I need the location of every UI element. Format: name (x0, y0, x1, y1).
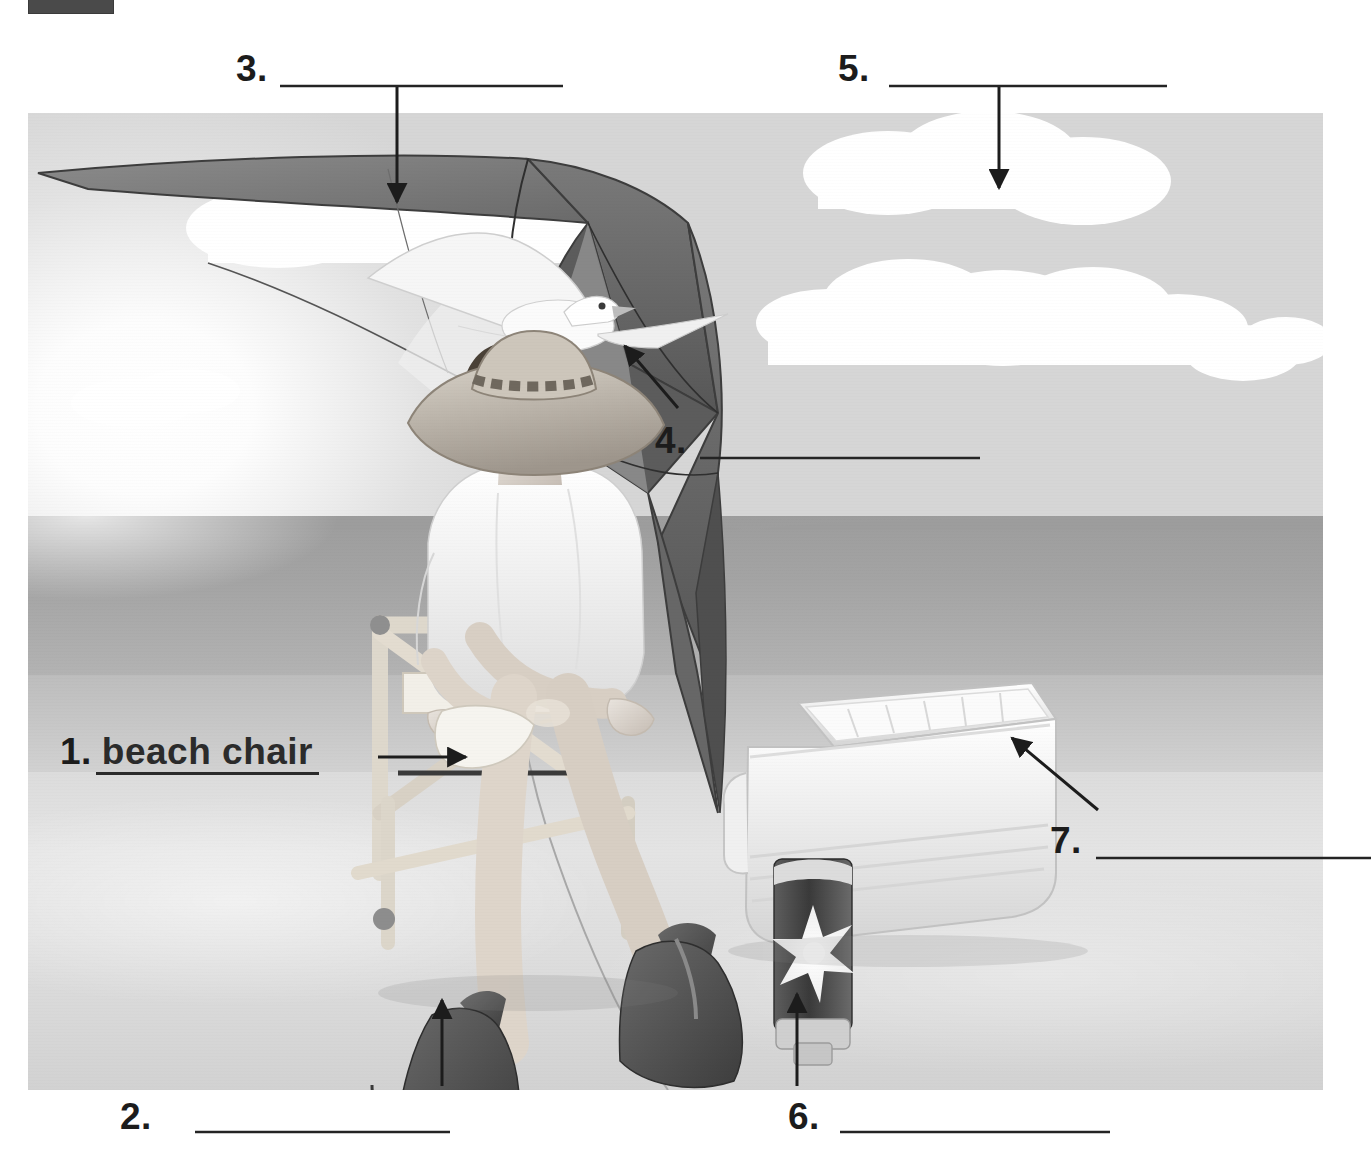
label-4-number: 4. (655, 420, 687, 461)
label-2[interactable]: 2. (120, 1098, 152, 1135)
label-1-answer[interactable]: beach chair (96, 733, 319, 775)
label-text-layer: 1.beach chair 2. 3. 4. 5. 6. 7. (0, 0, 1371, 1164)
label-5[interactable]: 5. (838, 50, 870, 87)
label-7[interactable]: 7. (1050, 822, 1082, 859)
label-6[interactable]: 6. (788, 1098, 820, 1135)
label-2-number: 2. (120, 1096, 152, 1137)
label-6-number: 6. (788, 1096, 820, 1137)
label-1[interactable]: 1.beach chair (60, 733, 319, 775)
worksheet-page: 1.beach chair 2. 3. 4. 5. 6. 7. (0, 0, 1371, 1164)
label-3-number: 3. (236, 48, 268, 89)
label-5-number: 5. (838, 48, 870, 89)
label-4[interactable]: 4. (655, 422, 687, 459)
label-3[interactable]: 3. (236, 50, 268, 87)
label-1-number: 1. (60, 731, 92, 772)
label-7-number: 7. (1050, 820, 1082, 861)
